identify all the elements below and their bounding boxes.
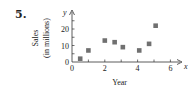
data-point (86, 48, 91, 53)
data-point (121, 45, 126, 50)
x-tick-label: 6 (168, 64, 172, 73)
x-axis-title: Year (112, 78, 127, 87)
data-point (112, 40, 117, 45)
data-point (147, 42, 152, 47)
x-tick-label: 2 (103, 64, 107, 73)
data-point (103, 38, 108, 43)
x-tick-label: 4 (136, 64, 140, 73)
y-tick-label: 10 (61, 42, 69, 51)
data-point (137, 48, 142, 53)
y-axis-title-line2: (in millions) (42, 18, 51, 58)
y-tick-label: 0 (65, 58, 69, 67)
y-axis-variable: y (62, 8, 67, 17)
x-tick-label: 0 (70, 64, 74, 73)
y-axis-title-line1: Sales (31, 30, 40, 47)
x-axis-variable: x (183, 62, 188, 71)
data-point (78, 56, 83, 61)
scatter-chart: xy010200246YearSales(in millions) (0, 0, 195, 90)
data-point (153, 23, 158, 28)
y-tick-label: 20 (61, 25, 69, 34)
